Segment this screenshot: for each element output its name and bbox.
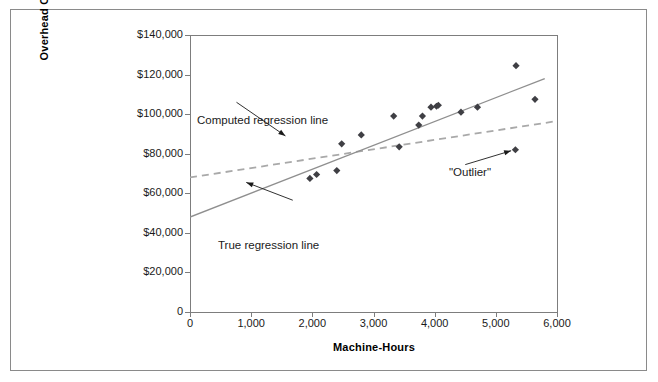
data-point-marker — [427, 104, 434, 111]
chart-figure: 0$20,000$40,000$60,000$80,000$100,000$12… — [0, 0, 658, 382]
data-point-marker — [333, 167, 340, 174]
data-point-marker — [415, 121, 422, 128]
plot-area — [190, 35, 557, 312]
x-tick-label: 5,000 — [482, 318, 510, 329]
x-tick-label: 1,000 — [237, 318, 265, 329]
data-point-marker — [474, 104, 481, 111]
annotation-arrow-line — [465, 151, 511, 165]
data-point-marker — [396, 143, 403, 150]
data-point-marker — [531, 96, 538, 103]
data-point-marker — [512, 62, 519, 69]
y-tick-label: $120,000 — [137, 69, 183, 80]
y-tick-label: $40,000 — [143, 227, 183, 238]
data-point-marker — [419, 113, 426, 120]
regression-line — [190, 79, 545, 218]
x-tick-label: 2,000 — [299, 318, 327, 329]
y-tick-label: $100,000 — [137, 108, 183, 119]
y-tick-label: $60,000 — [143, 187, 183, 198]
annotation-arrow-head — [246, 182, 253, 187]
annotation-true-regression-line: True regression line — [218, 240, 319, 252]
data-point-markers — [306, 62, 538, 182]
annotation-outlier: "Outlier" — [449, 167, 491, 179]
y-tick-label: 0 — [177, 306, 183, 317]
plot-canvas — [190, 35, 557, 312]
y-axis-title: Overhead Cost — [38, 0, 50, 100]
x-tick-label: 4,000 — [421, 318, 449, 329]
x-tick-label: 3,000 — [360, 318, 388, 329]
data-point-marker — [313, 171, 320, 178]
right-axis-line — [557, 35, 558, 313]
x-tick-label: 0 — [187, 318, 193, 329]
x-axis-title: Machine-Hours — [190, 341, 558, 353]
regression-line — [190, 121, 557, 177]
data-point-marker — [512, 146, 519, 153]
y-tick-label: $80,000 — [143, 148, 183, 159]
regression-lines — [190, 79, 557, 218]
data-point-marker — [338, 140, 345, 147]
data-point-marker — [358, 131, 365, 138]
y-tick-label: $140,000 — [137, 29, 183, 40]
data-point-marker — [306, 175, 313, 182]
data-point-marker — [390, 113, 397, 120]
y-tick-label: $20,000 — [143, 266, 183, 277]
annotation-arrow-line — [246, 182, 292, 200]
annotation-arrow-head — [278, 130, 285, 136]
annotation-computed-regression-line: Computed regression line — [197, 115, 328, 127]
x-tick-label: 6,000 — [543, 318, 571, 329]
annotation-arrow-head — [504, 150, 511, 155]
